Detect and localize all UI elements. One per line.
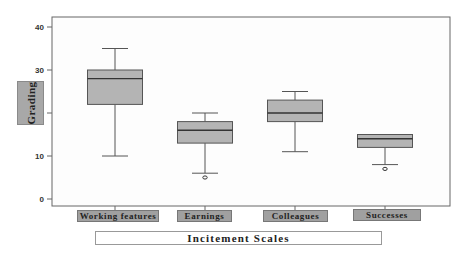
category-label: Colleagues [263,210,328,222]
category-label: Earnings [177,210,232,222]
y-axis-label-text: Grading [25,81,37,124]
x-axis-label-text: Incitement Scales [187,232,290,244]
y-tick-label: 40 [35,23,44,32]
category-label: Working features [77,210,159,222]
x-axis-label: Incitement Scales [95,231,382,245]
y-axis-label: Grading [17,81,44,125]
y-tick-label: 30 [35,66,44,75]
iqr-box [358,135,413,148]
category-label: Successes [353,209,421,221]
y-tick-label: 10 [35,152,44,161]
iqr-box [178,122,233,144]
y-tick-label: 0 [40,195,45,204]
iqr-box [268,100,323,122]
plot-area [52,17,450,206]
iqr-box [88,70,143,104]
